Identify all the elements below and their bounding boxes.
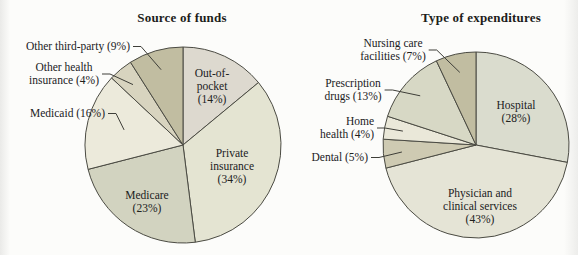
callout-label-nursing-care-facilities: Nursing care facilities (7%)	[352, 37, 434, 63]
dual-pie-chart-figure: Source of funds Out-of- pocket (14%) Pri…	[0, 0, 578, 255]
slice-label-physician-and-clinical-services: Physician and clinical services (43%)	[443, 187, 517, 226]
slice-label-hospital: Hospital (28%)	[497, 99, 536, 125]
callout-label-prescription-drugs: Prescription drugs (13%)	[317, 77, 389, 103]
callout-label-home-health: Home health (4%)	[300, 115, 374, 141]
callout-label-dental: Dental (5%)	[288, 151, 368, 164]
pie-chart-type-of-expenditures: Type of expenditures Hospital (28%) Phys…	[0, 0, 578, 255]
chart-title-type-of-expenditures: Type of expenditures	[421, 10, 541, 26]
